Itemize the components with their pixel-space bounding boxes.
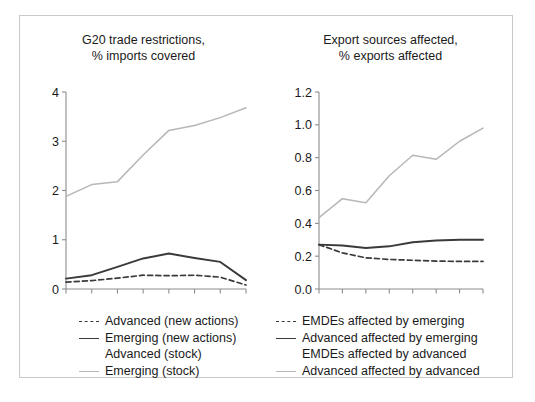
- right-legend-label: Advanced affected by advanced: [302, 363, 480, 380]
- left-plot-area: 01234: [20, 74, 267, 306]
- left-chart-svg: 01234: [20, 74, 267, 306]
- data-series-line: [319, 128, 483, 217]
- right-legend-label: EMDEs affected by emerging: [302, 313, 464, 330]
- left-legend-swatch-light-icon: [78, 365, 100, 377]
- chart-panel-left: G20 trade restrictions,% imports covered…: [20, 16, 267, 377]
- data-series-line: [66, 275, 246, 285]
- right-chart-title-line1: Export sources affected,: [323, 33, 458, 47]
- left-legend-item: Advanced (new actions): [78, 313, 238, 330]
- left-legend-swatch-solid-icon: [78, 332, 100, 344]
- data-series-line: [319, 240, 483, 248]
- y-tick-label: 0.2: [295, 250, 312, 264]
- figure-frame: G20 trade restrictions,% imports covered…: [19, 15, 513, 378]
- left-legend-item: Emerging (stock): [78, 363, 238, 380]
- right-chart-legend: EMDEs affected by emergingAdvanced affec…: [275, 313, 480, 379]
- right-legend-swatch-dashed-icon: [275, 315, 297, 327]
- right-legend-label: Advanced affected by emerging: [302, 330, 478, 347]
- left-legend-swatch-blank-icon: [78, 348, 100, 360]
- y-tick-label: 0.4: [295, 217, 312, 231]
- y-tick-label: 0.0: [295, 283, 312, 297]
- data-series-line: [319, 245, 483, 262]
- y-tick-label: 3: [52, 135, 59, 149]
- left-chart-title: G20 trade restrictions,% imports covered: [20, 32, 267, 64]
- left-chart-title-line2: % imports covered: [92, 49, 196, 63]
- right-legend-item: EMDEs affected by advanced: [275, 346, 480, 363]
- right-legend-item: EMDEs affected by emerging: [275, 313, 480, 330]
- right-legend-label: EMDEs affected by advanced: [302, 346, 466, 363]
- left-chart-legend: Advanced (new actions)Emerging (new acti…: [78, 313, 238, 379]
- right-legend-swatch-light-icon: [275, 365, 297, 377]
- y-tick-label: 0: [52, 283, 59, 297]
- y-tick-label: 0.6: [295, 184, 312, 198]
- right-chart-svg: 0.00.20.40.60.81.01.2: [267, 74, 514, 306]
- right-legend-item: Advanced affected by emerging: [275, 330, 480, 347]
- left-legend-item: Advanced (stock): [78, 346, 238, 363]
- right-chart-title-line2: % exports affected: [339, 49, 442, 63]
- y-tick-label: 4: [52, 86, 59, 100]
- right-legend-item: Advanced affected by advanced: [275, 363, 480, 380]
- left-legend-label: Emerging (new actions): [105, 330, 236, 347]
- right-plot-area: 0.00.20.40.60.81.01.2: [267, 74, 514, 306]
- left-legend-label: Advanced (new actions): [105, 313, 238, 330]
- left-legend-label: Advanced (stock): [105, 346, 202, 363]
- y-tick-label: 2: [52, 184, 59, 198]
- left-legend-item: Emerging (new actions): [78, 330, 238, 347]
- y-tick-label: 1.2: [295, 86, 312, 100]
- left-legend-label: Emerging (stock): [105, 363, 199, 380]
- left-chart-title-line1: G20 trade restrictions,: [82, 33, 205, 47]
- y-tick-label: 0.8: [295, 151, 312, 165]
- right-legend-swatch-blank-icon: [275, 348, 297, 360]
- right-chart-title: Export sources affected,% exports affect…: [267, 32, 514, 64]
- chart-panel-right: Export sources affected,% exports affect…: [267, 16, 514, 377]
- right-legend-swatch-solid-icon: [275, 332, 297, 344]
- data-series-line: [66, 108, 246, 197]
- y-tick-label: 1: [52, 233, 59, 247]
- left-legend-swatch-dashed-icon: [78, 315, 100, 327]
- y-tick-label: 1.0: [295, 118, 312, 132]
